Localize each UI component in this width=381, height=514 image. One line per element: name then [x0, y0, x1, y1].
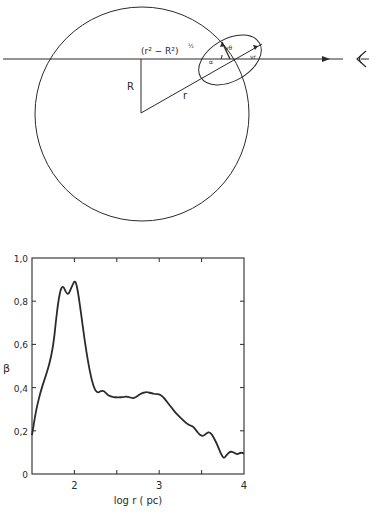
- alpha-label: α: [209, 58, 213, 65]
- y-tick-label: 0: [22, 470, 28, 480]
- x-axis-label: log r ( pc): [114, 495, 163, 506]
- alpha-arc: [221, 55, 222, 59]
- y-tick-label: 0,8: [14, 297, 29, 307]
- projection-label: (r² − R²): [141, 46, 178, 56]
- beta-chart: 00,20,40,60,81,0 234 log r ( pc) β: [3, 254, 247, 506]
- y-tick-label: 1,0: [14, 254, 29, 264]
- cluster-circle: [35, 7, 249, 221]
- x-axis: 234: [71, 258, 247, 491]
- geometry-diagram: (r² − R²) ½ R r vθ vr α: [3, 7, 369, 221]
- y-tick-label: 0,2: [14, 427, 28, 437]
- series-line-beta: [32, 282, 244, 458]
- figure: (r² − R²) ½ R r vθ vr α 00,20,40,60,81,0…: [0, 0, 381, 514]
- plot-frame: [32, 258, 244, 474]
- y-tick-label: 0,6: [14, 340, 29, 350]
- x-tick-label: 2: [71, 480, 77, 491]
- y-axis-label: β: [3, 362, 10, 375]
- R-label: R: [127, 81, 134, 92]
- x-tick-label: 4: [241, 480, 247, 491]
- projection-exponent: ½: [188, 42, 194, 49]
- v-theta-label: vθ: [225, 44, 233, 51]
- r-label: r: [183, 90, 188, 101]
- v-r-label: vr: [250, 53, 257, 60]
- y-tick-label: 0,4: [14, 384, 29, 394]
- velocity-ellipse: [190, 25, 270, 95]
- arrow-right-icon: [322, 56, 330, 62]
- eye-icon: [357, 51, 369, 67]
- x-tick-label: 3: [156, 480, 162, 491]
